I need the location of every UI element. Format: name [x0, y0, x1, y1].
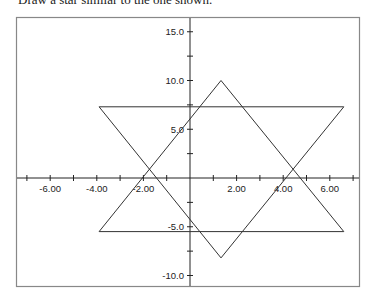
x-tick-label: 4.00	[274, 183, 293, 194]
x-tick-label: -2.00	[133, 183, 155, 194]
x-tick-label: 2.00	[227, 183, 246, 194]
y-tick-label: -5.0	[168, 221, 184, 232]
star-chart: -6.00-4.00-2.002.004.006.0015.010.05.0-5…	[0, 0, 375, 299]
y-tick-label: 10.0	[166, 75, 185, 86]
star-shape	[99, 81, 344, 258]
x-tick-label: 6.00	[321, 183, 340, 194]
x-tick-label: -6.00	[39, 183, 61, 194]
x-tick-label: -4.00	[86, 183, 108, 194]
y-tick-label: 15.0	[166, 26, 185, 37]
y-tick-label: -10.0	[162, 270, 184, 281]
plot-frame	[17, 18, 360, 287]
triangle-line	[99, 81, 344, 232]
